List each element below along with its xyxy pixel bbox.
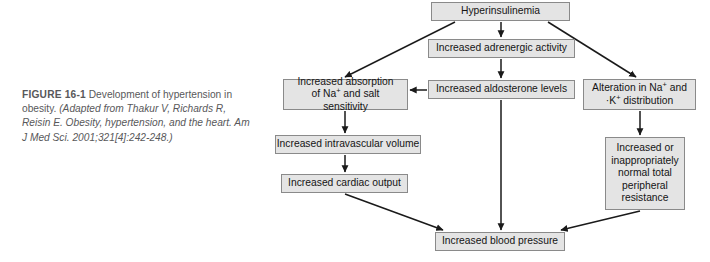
node-increased-adrenergic-activity: Increased adrenergic activity (428, 39, 575, 58)
node-hyperinsulinemia: Hyperinsulinemia (431, 2, 570, 21)
flowchart-connectors (0, 0, 710, 262)
node-hyperinsulinemia-label: Hyperinsulinemia (461, 5, 540, 17)
node-increased-cardiac-output: Increased cardiac output (281, 174, 408, 193)
node-increased-aldosterone-levels: Increased aldosterone levels (428, 80, 575, 99)
node-cardiac-label: Increased cardiac output (288, 177, 401, 189)
node-alteration-label: Alteration in Na+ and·K+ distribution (592, 82, 687, 106)
node-alteration-line2-pre: ·K (606, 95, 616, 106)
node-intravascular-label: Increased intravascular volume (277, 138, 420, 150)
node-absorption-label: Increased absorptionof Na+ and salt sens… (288, 76, 403, 113)
node-adrenergic-label: Increased adrenergic activity (436, 42, 567, 54)
edge-resistance-bloodpressure (561, 211, 640, 230)
node-bloodpressure-label: Increased blood pressure (442, 235, 558, 247)
node-increased-blood-pressure: Increased blood pressure (435, 232, 565, 251)
node-increased-sodium-absorption: Increased absorptionof Na+ and salt sens… (283, 79, 408, 110)
node-sodium-potassium-alteration: Alteration in Na+ and·K+ distribution (583, 79, 696, 110)
node-alteration-line2-post: distribution (620, 95, 673, 106)
node-alteration-line1-pre: Alteration in Na (592, 82, 662, 93)
hypertension-flowchart: Hyperinsulinemia Increased adrenergic ac… (0, 0, 710, 262)
node-alteration-line1-post: and (667, 82, 687, 93)
node-absorption-line2-pre: of Na (312, 88, 337, 99)
node-aldosterone-label: Increased aldosterone levels (436, 83, 567, 95)
node-absorption-line1: Increased absorption (297, 76, 393, 87)
edge-cardiac-bloodpressure (345, 194, 443, 230)
node-total-peripheral-resistance: Increased or inappropriately normal tota… (605, 137, 685, 210)
node-resistance-label: Increased or inappropriately normal tota… (610, 142, 680, 205)
node-increased-intravascular-volume: Increased intravascular volume (275, 135, 421, 154)
